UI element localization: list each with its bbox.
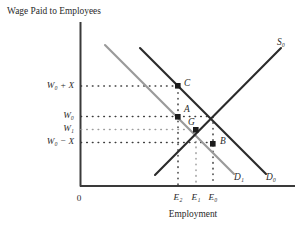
curve-label-d1: D₁ <box>234 172 244 183</box>
point-label-c: C <box>184 78 190 89</box>
point-label-b: B <box>220 136 226 147</box>
y-tick-label-w0-minus-x: W₀ − X <box>14 136 74 146</box>
wage-employment-diagram: Wage Paid to Employees Employment 0 W₀ +… <box>0 0 308 237</box>
marker-point-g <box>193 127 199 133</box>
curve-label-s0: S₀ <box>277 37 285 48</box>
point-label-a: A <box>184 104 190 115</box>
curve-s0 <box>155 48 281 175</box>
point-label-g: G <box>188 117 195 128</box>
marker-point-a <box>175 114 181 120</box>
marker-point-b <box>210 141 216 147</box>
y-tick-label-w0: W₀ <box>14 110 74 120</box>
marker-point-c <box>175 83 181 89</box>
y-tick-label-w1: W₁ <box>14 123 74 133</box>
horizontal-guides <box>81 86 212 143</box>
curve-d1 <box>105 45 234 174</box>
y-axis-title: Wage Paid to Employees <box>6 6 102 17</box>
curve-label-d0: D₀ <box>266 172 276 183</box>
x-tick-label-e0: E₀ <box>202 192 224 202</box>
x-axis-title: Employment <box>150 209 236 220</box>
curve-d0 <box>140 48 266 174</box>
y-tick-label-w0-plus-x: W₀ + X <box>14 80 74 90</box>
point-markers <box>175 83 216 147</box>
origin-label: 0 <box>70 193 88 203</box>
